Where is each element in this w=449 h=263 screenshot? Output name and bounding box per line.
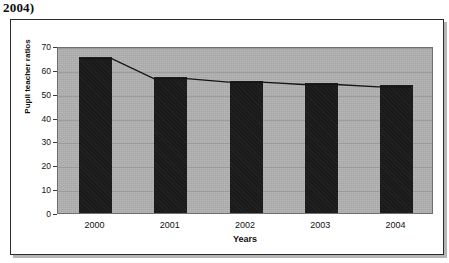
x-axis-title: Years [57, 234, 433, 244]
y-tick-label: 30 [25, 138, 51, 147]
y-tick-mark [53, 190, 57, 191]
y-tick-mark [53, 166, 57, 167]
y-tick-label: 0 [25, 210, 51, 219]
x-tick-label: 2003 [285, 220, 355, 230]
bar [305, 83, 338, 213]
bar [230, 81, 263, 213]
gridline [58, 48, 432, 49]
y-tick-label: 10 [25, 186, 51, 195]
x-tick-label: 2004 [360, 220, 430, 230]
bar [79, 57, 112, 213]
y-tick-mark [53, 47, 57, 48]
bar [154, 77, 187, 213]
y-tick-mark [53, 95, 57, 96]
x-tick-label: 2000 [60, 220, 130, 230]
y-tick-mark [53, 142, 57, 143]
bar [380, 85, 413, 213]
gridline [58, 72, 432, 73]
y-tick-mark [53, 214, 57, 215]
y-tick-mark [53, 119, 57, 120]
y-axis-title: Pupil teacher ratios [23, 17, 32, 137]
caption-fragment: 2004) [3, 0, 34, 16]
x-tick-label: 2002 [210, 220, 280, 230]
x-tick-label: 2001 [135, 220, 205, 230]
y-tick-mark [53, 71, 57, 72]
plot-area [57, 47, 433, 214]
y-tick-label: 20 [25, 162, 51, 171]
chart-figure-frame: 010203040506070 Pupil teacher ratios 200… [10, 19, 444, 255]
